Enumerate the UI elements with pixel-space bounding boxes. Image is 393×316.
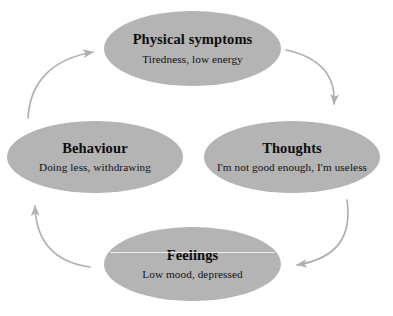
arrow-physical-to-thoughts	[286, 50, 334, 104]
node-thoughts-subtitle: I'm not good enough, I'm useless	[217, 161, 367, 173]
cycle-diagram: Physical symptoms Tiredness, low energy …	[0, 0, 393, 316]
node-physical-symptoms: Physical symptoms Tiredness, low energy	[104, 11, 281, 86]
node-physical-symptoms-title: Physical symptoms	[133, 32, 253, 48]
node-physical-symptoms-subtitle: Tiredness, low energy	[142, 53, 243, 65]
scan-artifact-line	[110, 252, 275, 253]
node-thoughts-title: Thoughts	[262, 141, 322, 157]
node-thoughts: Thoughts I'm not good enough, I'm useles…	[204, 121, 380, 193]
arrow-behaviour-to-physical	[28, 52, 93, 118]
node-feelings: Feelings Low mood, depressed	[104, 227, 281, 301]
arrow-thoughts-to-feelings	[297, 200, 348, 265]
node-behaviour-subtitle: Doing less, withdrawing	[39, 161, 151, 173]
node-feelings-title: Feelings	[167, 248, 219, 264]
node-behaviour-title: Behaviour	[62, 141, 127, 157]
node-feelings-subtitle: Low mood, depressed	[142, 268, 242, 280]
arrow-feelings-to-behaviour	[35, 206, 90, 267]
node-behaviour: Behaviour Doing less, withdrawing	[7, 121, 183, 193]
